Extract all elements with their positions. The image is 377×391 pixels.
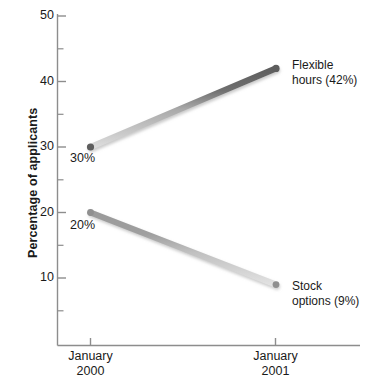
y-axis-title: Percentage of applicants xyxy=(26,108,41,258)
series-stock-options[interactable] xyxy=(87,209,279,288)
series-flexible-hours-point-2000 xyxy=(87,143,94,150)
y-axis-minor-ticks xyxy=(58,49,64,311)
x-tick-label-2001-year: 2001 xyxy=(231,364,321,379)
series-label-stock-options-line2: options (9%) xyxy=(292,293,359,309)
series-stock-options-line xyxy=(91,213,277,285)
series-stock-options-point-2001 xyxy=(273,281,280,288)
line-chart: Percentage of applicants 50 40 30 20 10 … xyxy=(0,0,377,391)
series-label-flexible-hours-line2: hours (42%) xyxy=(292,72,357,88)
y-tick-label-30: 30 xyxy=(28,139,54,154)
y-axis-major-ticks xyxy=(58,16,67,278)
y-tick-label-40: 40 xyxy=(28,74,54,89)
series-flexible-hours-point-2001 xyxy=(272,65,279,72)
x-axis-ticks xyxy=(91,338,276,346)
series-label-flexible-hours-line1: Flexible xyxy=(292,57,333,73)
series-flexible-hours-line xyxy=(91,68,277,147)
series-stock-options-point-2000 xyxy=(87,209,94,216)
series-flexible-hours[interactable] xyxy=(87,65,280,151)
x-tick-label-2001-month: January xyxy=(231,349,321,364)
y-tick-label-20: 20 xyxy=(28,205,54,220)
data-label-flexible-hours-start: 30% xyxy=(70,151,95,166)
x-tick-label-2000-month: January xyxy=(46,349,136,364)
y-tick-label-10: 10 xyxy=(28,270,54,285)
series-label-stock-options-line1: Stock xyxy=(292,278,322,294)
data-label-stock-options-start: 20% xyxy=(70,218,95,233)
y-tick-label-50: 50 xyxy=(28,8,54,23)
x-tick-label-2000-year: 2000 xyxy=(46,364,136,379)
